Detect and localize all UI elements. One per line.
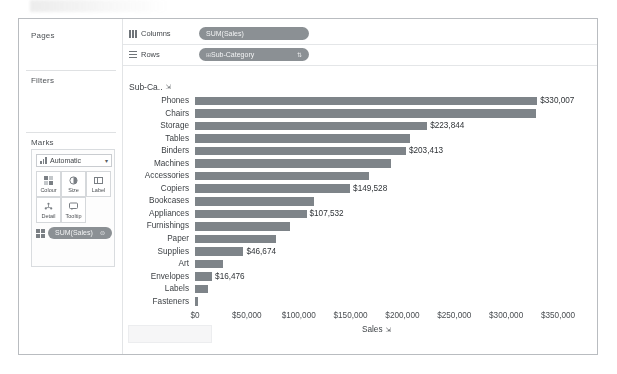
marks-card-title: Marks (26, 133, 116, 147)
marks-colour-label: Colour (40, 187, 56, 193)
bar[interactable] (195, 97, 537, 106)
bar-row[interactable]: Accessories (123, 170, 597, 182)
bar[interactable] (195, 172, 369, 181)
category-label: Copiers (123, 183, 193, 195)
sort-descending-icon: ⇲ (166, 83, 171, 91)
chevron-down-icon: ▾ (105, 158, 108, 164)
bar-row[interactable]: Supplies$46,674 (123, 246, 597, 258)
visualization-pane: Sub-Ca.. ⇲ Phones$330,007ChairsStorage$2… (123, 69, 597, 354)
rows-shelf-label: Rows (141, 50, 160, 59)
marks-detail-button[interactable]: Detail (36, 197, 61, 223)
rows-pill-sub-category[interactable]: ⊞ Sub-Category ⇅ (199, 48, 309, 61)
marks-colour-button[interactable]: Colour (36, 171, 61, 197)
bar[interactable] (195, 272, 212, 281)
bar[interactable] (195, 260, 223, 269)
filters-card-title: Filters (26, 71, 116, 85)
bar[interactable] (195, 285, 208, 294)
bar-value-label: $330,007 (540, 95, 574, 107)
cropped-title-ghost (30, 0, 170, 12)
marks-size-label: Size (68, 187, 79, 193)
left-cards-column: Pages Filters Marks Automatic ▾ Colour (19, 19, 123, 354)
bar[interactable] (195, 184, 350, 193)
bar-value-label: $223,844 (430, 120, 464, 132)
columns-shelf[interactable]: Columns SUM(Sales) (123, 23, 597, 45)
row-header-title-text: Sub-Ca.. (129, 82, 163, 92)
bar-row[interactable]: Furnishings (123, 221, 597, 233)
columns-pill-sum-sales[interactable]: SUM(Sales) (199, 27, 309, 40)
bar-row[interactable]: Machines (123, 158, 597, 170)
bar-value-label: $46,674 (246, 246, 276, 258)
mark-type-value: Automatic (50, 157, 81, 164)
rows-shelf[interactable]: Rows ⊞ Sub-Category ⇅ (123, 44, 597, 66)
bar[interactable] (195, 122, 427, 131)
x-axis-title-group[interactable]: Sales⇲ (362, 325, 391, 334)
bar-row[interactable]: Storage$223,844 (123, 120, 597, 132)
category-label: Chairs (123, 108, 193, 120)
bar-row[interactable]: Envelopes$16,476 (123, 271, 597, 283)
x-axis-title-text: Sales (362, 325, 382, 334)
marks-pill-text: SUM(Sales) (55, 229, 93, 236)
bar-row[interactable]: Labels (123, 283, 597, 295)
bar[interactable] (195, 134, 410, 143)
category-label: Fasteners (123, 296, 193, 308)
columns-shelf-label-group: Columns (123, 29, 199, 38)
bar[interactable] (195, 109, 536, 118)
bar-row[interactable]: Tables (123, 133, 597, 145)
bar-row[interactable]: Fasteners (123, 296, 597, 308)
category-label: Supplies (123, 246, 193, 258)
bar[interactable] (195, 297, 198, 306)
marks-size-button[interactable]: Size (61, 171, 86, 197)
category-label: Machines (123, 158, 193, 170)
rows-grid-icon (129, 51, 137, 59)
marks-card[interactable]: Marks Automatic ▾ Colour (26, 133, 116, 273)
bar-row[interactable]: Appliances$107,532 (123, 208, 597, 220)
mark-type-dropdown[interactable]: Automatic ▾ (36, 154, 112, 167)
marks-label-shelf-icon (36, 224, 45, 242)
bar[interactable] (195, 197, 314, 206)
size-icon (69, 176, 78, 186)
category-label: Accessories (123, 170, 193, 182)
bar[interactable] (195, 147, 406, 156)
tableau-worksheet-frame: Pages Filters Marks Automatic ▾ Colour (18, 18, 598, 355)
label-icon (94, 176, 103, 186)
bar-row[interactable]: Binders$203,413 (123, 145, 597, 157)
shelf-area: Columns SUM(Sales) Rows ⊞ Sub-Category ⇅ (123, 19, 597, 69)
bar[interactable] (195, 235, 276, 244)
x-axis-tick-label: $50,000 (232, 311, 262, 320)
x-axis-tick-label: $200,000 (385, 311, 419, 320)
bar-chart-plot: Phones$330,007ChairsStorage$223,844Table… (123, 95, 597, 309)
category-label: Art (123, 258, 193, 270)
category-label: Tables (123, 133, 193, 145)
marks-pill-sum-sales[interactable]: SUM(Sales) ⊜ (48, 227, 112, 239)
category-label: Appliances (123, 208, 193, 220)
colour-icon (44, 176, 53, 186)
category-label: Labels (123, 283, 193, 295)
bar[interactable] (195, 210, 307, 219)
x-axis-tick-label: $0 (190, 311, 199, 320)
marks-tooltip-button[interactable]: Tooltip (61, 197, 86, 223)
x-axis-tick-label: $100,000 (282, 311, 316, 320)
row-header-title-group[interactable]: Sub-Ca.. ⇲ (129, 82, 171, 92)
filters-card[interactable]: Filters (26, 71, 116, 133)
bar-row[interactable]: Phones$330,007 (123, 95, 597, 107)
rows-shelf-label-group: Rows (123, 50, 199, 59)
card-residue (128, 325, 212, 343)
columns-shelf-label: Columns (141, 29, 171, 38)
bar-row[interactable]: Bookcases (123, 195, 597, 207)
category-label: Paper (123, 233, 193, 245)
category-label: Phones (123, 95, 193, 107)
bar-row[interactable]: Paper (123, 233, 597, 245)
bar[interactable] (195, 222, 290, 231)
marks-label-button[interactable]: Label (86, 171, 111, 197)
marks-label-label: Label (92, 187, 105, 193)
pages-card[interactable]: Pages (26, 26, 116, 71)
category-label: Furnishings (123, 220, 193, 232)
bar-row[interactable]: Chairs (123, 108, 597, 120)
sort-descending-icon: ⇲ (386, 326, 391, 334)
bar[interactable] (195, 159, 391, 168)
marks-tooltip-label: Tooltip (66, 213, 82, 219)
bar-row[interactable]: Art (123, 258, 597, 270)
bar-row[interactable]: Copiers$149,528 (123, 183, 597, 195)
bar[interactable] (195, 247, 243, 256)
category-label: Storage (123, 120, 193, 132)
